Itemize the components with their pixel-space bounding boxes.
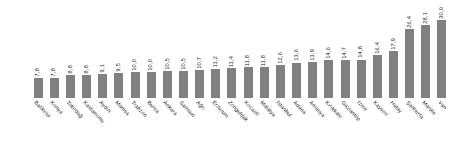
x-axis-label: Aydın	[98, 100, 112, 114]
bar-group: 17,9	[385, 4, 401, 98]
bar-value-label: 8,8	[84, 65, 90, 73]
bar-value-label: 13,9	[310, 49, 316, 61]
bar-value-label: 26,4	[407, 16, 413, 28]
bar	[82, 75, 91, 98]
bar	[341, 60, 350, 98]
x-axis-label-cell: İzmir	[353, 99, 369, 142]
bar	[227, 68, 236, 98]
bar	[324, 60, 333, 98]
bar-value-label: 8,8	[68, 65, 74, 73]
x-axis-label-cell: Malatya	[256, 99, 272, 142]
bar	[179, 71, 188, 98]
x-axis-label-cell: Kırıkkale	[321, 99, 337, 142]
x-axis-label: Bursa	[146, 100, 160, 114]
x-axis-labels: BalıkesirKonyaTekirdağKastamonuAydınMani…	[30, 99, 450, 142]
x-axis-label: Van	[437, 100, 447, 111]
bar	[131, 72, 140, 98]
x-axis-label-cell: Zonguldak	[224, 99, 240, 142]
bar-value-label: 10,5	[181, 58, 187, 70]
plot-area: 7,87,88,88,89,19,510,010,010,510,510,711…	[30, 4, 450, 98]
bar-group: 11,2	[208, 4, 224, 98]
bar-value-label: 14,8	[358, 46, 364, 58]
x-axis-label-cell: Gaziantep	[337, 99, 353, 142]
x-axis-label-cell: Trabzon	[127, 99, 143, 142]
bar	[421, 25, 430, 98]
bar-value-label: 11,8	[261, 55, 267, 66]
x-axis-label-cell: Kayseri	[369, 99, 385, 142]
bar-value-label: 14,7	[342, 47, 348, 59]
x-axis-label-cell: Manisa	[111, 99, 127, 142]
x-axis-label-cell: Erzurum	[208, 99, 224, 142]
bar-group: 11,8	[240, 4, 256, 98]
x-axis-label-cell: Ankara	[159, 99, 175, 142]
x-axis-label-cell: Amasya	[305, 99, 321, 142]
bar-group: 10,5	[175, 4, 191, 98]
bar-group: 11,4	[224, 4, 240, 98]
bar-value-label: 9,5	[116, 63, 122, 71]
bar	[66, 75, 75, 98]
bar-value-label: 30,0	[439, 7, 445, 19]
x-axis-label-cell: Kocaeli	[240, 99, 256, 142]
x-axis-label-cell: Van	[434, 99, 450, 142]
bar	[292, 63, 301, 98]
bar-chart: 7,87,88,88,89,19,510,010,010,510,510,711…	[0, 0, 462, 142]
bar	[308, 62, 317, 98]
bar	[114, 73, 123, 98]
bar-value-label: 9,1	[100, 64, 106, 72]
x-axis-label-cell: Adana	[289, 99, 305, 142]
bar-group: 10,0	[127, 4, 143, 98]
bar-group: 10,0	[143, 4, 159, 98]
bar	[244, 67, 253, 98]
bar	[260, 67, 269, 98]
bar	[211, 69, 220, 98]
bar-value-label: 10,0	[132, 59, 138, 71]
bar-value-label: 7,8	[35, 68, 41, 76]
bar-value-label: 14,6	[326, 47, 332, 59]
bar-value-label: 28,1	[423, 12, 429, 24]
bar	[389, 51, 398, 98]
bar-value-label: 11,8	[245, 55, 251, 66]
bar-group: 10,7	[192, 4, 208, 98]
bar-group: 14,6	[321, 4, 337, 98]
bar-group: 7,8	[30, 4, 46, 98]
bar-group: 12,6	[272, 4, 288, 98]
x-axis-label-cell: Bursa	[143, 99, 159, 142]
bar-group: 14,8	[353, 4, 369, 98]
bar-value-label: 17,9	[391, 38, 397, 50]
bar	[163, 71, 172, 98]
x-axis-label: Hatay	[389, 100, 403, 114]
bar-group: 9,1	[95, 4, 111, 98]
bar-value-label: 10,0	[148, 59, 154, 71]
bar-value-label: 11,4	[229, 56, 235, 67]
bar-group: 7,8	[46, 4, 62, 98]
x-axis-label-cell: Mardin	[418, 99, 434, 142]
bar-group: 30,0	[434, 4, 450, 98]
bar-group: 26,4	[402, 4, 418, 98]
bar-group: 16,4	[369, 4, 385, 98]
x-axis-label-cell: Samsun	[175, 99, 191, 142]
bar	[405, 29, 414, 98]
bar	[34, 78, 43, 98]
x-axis-label: Ağrı	[195, 100, 206, 111]
bar-group: 13,6	[289, 4, 305, 98]
bar	[437, 20, 446, 98]
x-axis-label-cell: Hatay	[385, 99, 401, 142]
bar-group: 8,8	[62, 4, 78, 98]
bar	[276, 65, 285, 98]
bar	[357, 60, 366, 98]
x-axis-label-cell: İstanbul	[272, 99, 288, 142]
x-axis-label-cell: Aydın	[95, 99, 111, 142]
bar-group: 10,5	[159, 4, 175, 98]
x-axis-label-cell: Kastamonu	[78, 99, 94, 142]
bar-group: 9,5	[111, 4, 127, 98]
bar-value-label: 10,7	[197, 57, 203, 69]
x-axis-label-cell: Şanlıurfa	[402, 99, 418, 142]
bar-group: 28,1	[418, 4, 434, 98]
bar-value-label: 12,6	[278, 52, 284, 64]
bar-group: 8,8	[78, 4, 94, 98]
bar	[98, 74, 107, 98]
bar-group: 14,7	[337, 4, 353, 98]
x-axis-label-cell: Balıkesir	[30, 99, 46, 142]
bar	[50, 78, 59, 98]
bar-value-label: 7,8	[51, 68, 57, 76]
